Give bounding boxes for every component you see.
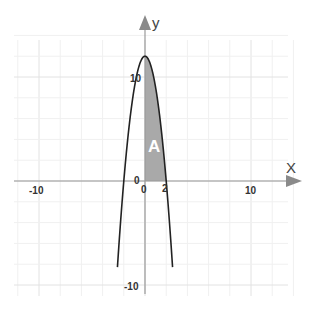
tick-y-neg10: -10	[124, 281, 139, 292]
tick-x-2: 2	[162, 183, 168, 194]
tick-origin-y: 0	[134, 175, 140, 186]
y-axis-label: y	[152, 14, 160, 31]
tick-x-0: 0	[141, 184, 147, 195]
tick-y-10: 10	[130, 73, 142, 84]
y-axis-arrow-icon	[139, 15, 151, 30]
graph-canvas: y X A -10 10 0 0 2 10 -10	[0, 0, 312, 310]
area-label: A	[148, 137, 160, 156]
x-axis-arrow-icon	[286, 175, 302, 187]
x-axis-label: X	[286, 159, 296, 176]
tick-x-neg10: -10	[29, 185, 44, 196]
tick-x-10: 10	[245, 185, 257, 196]
